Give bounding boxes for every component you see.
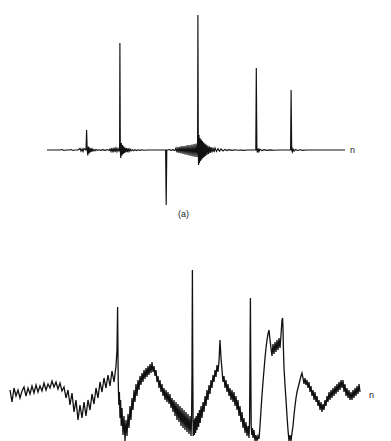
plot-panel-a xyxy=(0,0,391,230)
plot-panel-b xyxy=(0,230,391,441)
signal-trace-b xyxy=(10,270,360,441)
figure-root: n (a) n xyxy=(0,0,391,441)
panel-caption-a: (a) xyxy=(178,210,189,219)
axis-label-n-panel-b: n xyxy=(369,391,374,400)
signal-trace-a xyxy=(47,15,345,205)
axis-label-n-panel-a: n xyxy=(350,146,355,155)
